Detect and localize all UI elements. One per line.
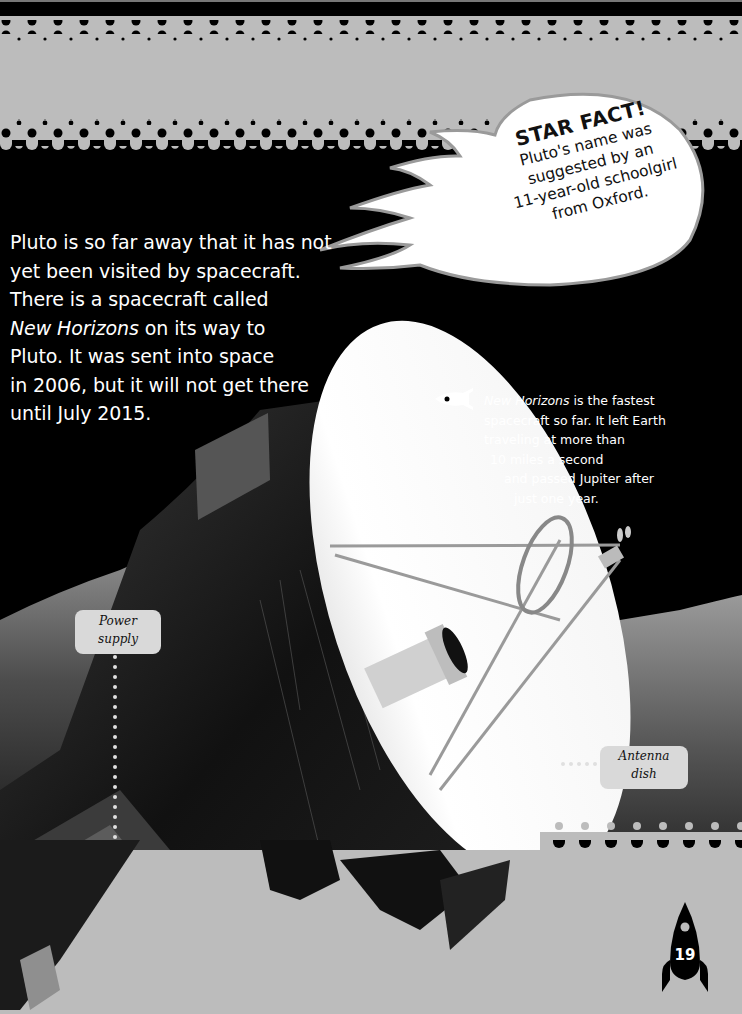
callout-text-segment: is the fastest (570, 393, 655, 408)
callout-line: New Horizons is the fastest (484, 391, 724, 411)
body-text-segment: on its way to (139, 317, 266, 339)
spacecraft-lower-part (0, 840, 520, 1010)
rocket-icon (433, 388, 475, 410)
body-line: Pluto is so far away that it has not (10, 228, 370, 257)
body-line: New Horizons on its way to (10, 314, 370, 343)
label-line: Antenna (600, 747, 688, 765)
body-line: until July 2015. (10, 399, 370, 428)
body-paragraph: Pluto is so far away that it has not yet… (10, 228, 370, 428)
spacecraft-name: New Horizons (484, 393, 570, 408)
callout-line: just one year. (484, 489, 724, 509)
spacecraft-name: New Horizons (10, 317, 139, 339)
body-line: Pluto. It was sent into space (10, 342, 370, 371)
label-line: supply (75, 630, 161, 648)
body-line: yet been visited by spacecraft. (10, 257, 370, 286)
callout-line: traveling at more than (484, 430, 724, 450)
antenna-dish-leader-dots (560, 761, 600, 767)
body-line: in 2006, but it will not get there (10, 371, 370, 400)
body-line: There is a spacecraft called (10, 285, 370, 314)
fact-callout: New Horizons is the fastest spacecraft s… (484, 391, 724, 508)
label-line: Power (75, 612, 161, 630)
power-supply-label: Power supply (75, 610, 161, 654)
book-page: STAR FACT! Pluto's name was suggested by… (0, 0, 742, 1014)
callout-line: 10 miles a second (484, 450, 724, 470)
callout-line: and passed Jupiter after (484, 469, 724, 489)
page-number: 19 (668, 946, 702, 964)
power-supply-leader-dots (112, 654, 118, 854)
callout-line: spacecraft so far. It left Earth (484, 411, 724, 431)
antenna-dish-label: Antenna dish (600, 746, 688, 789)
label-line: dish (600, 765, 688, 783)
